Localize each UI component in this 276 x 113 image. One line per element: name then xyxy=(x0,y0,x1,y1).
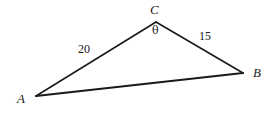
triangle-figure: C A B 20 15 θ xyxy=(0,0,276,113)
vertex-label-b: B xyxy=(253,66,261,79)
vertex-label-c: C xyxy=(150,3,159,16)
side-length-label-bc: 15 xyxy=(199,30,211,42)
vertex-label-a: A xyxy=(17,92,25,105)
side-length-label-ac: 20 xyxy=(78,43,90,55)
triangle-shape xyxy=(0,0,276,113)
angle-label-theta: θ xyxy=(152,25,159,36)
